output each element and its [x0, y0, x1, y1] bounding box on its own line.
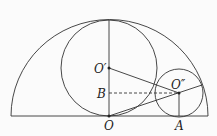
label-a: A — [174, 119, 184, 133]
label-o-prime: O′ — [94, 62, 107, 76]
point-o — [108, 115, 111, 118]
label-o: O — [104, 119, 114, 133]
label-b: B — [96, 87, 106, 101]
point-o-prime — [108, 67, 111, 70]
label-o-double-prime: O″ — [171, 78, 186, 92]
geometry-diagram: O′ B O″ O A — [0, 0, 217, 136]
